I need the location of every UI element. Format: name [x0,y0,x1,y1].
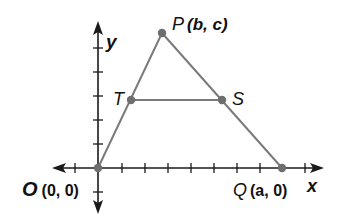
y-axis [93,21,103,214]
x-axis-label: x [306,176,318,196]
point-t [127,96,135,104]
point-t-label: T [113,89,126,109]
point-s [218,96,226,104]
y-axis-label: y [105,31,118,52]
coordinate-diagram: y x P(b, c) T S O(0, 0) Q(a, 0) [0,0,345,220]
point-q [278,164,286,172]
point-q-label: Q(a, 0) [233,180,287,200]
point-p [158,29,166,37]
triangle-segments [98,33,282,168]
point-s-label: S [232,89,244,109]
point-o-label: O(0, 0) [22,178,79,200]
point-o [94,164,102,172]
point-p-label: P(b, c) [172,14,228,34]
